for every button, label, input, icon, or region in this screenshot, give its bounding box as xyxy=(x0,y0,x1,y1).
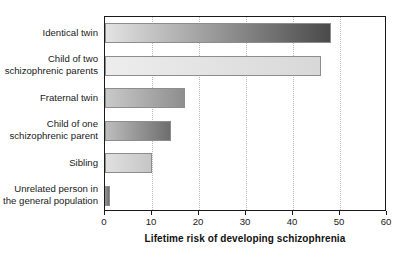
bar-row xyxy=(105,186,385,206)
tick-mark-0 xyxy=(104,211,105,215)
bar xyxy=(105,23,331,43)
gridline-10 xyxy=(152,17,154,210)
category-label: Fraternal twin xyxy=(40,92,98,103)
category-label: Unrelated person in the general populati… xyxy=(3,183,98,206)
category-label: Child of one schizophrenic parent xyxy=(9,118,98,141)
gridline-40 xyxy=(293,17,295,210)
tick-mark-50 xyxy=(339,211,340,215)
bar xyxy=(105,88,185,108)
bar xyxy=(105,186,110,206)
x-axis-title: Lifetime risk of developing schizophreni… xyxy=(104,233,386,244)
tick-mark-40 xyxy=(292,211,293,215)
bar xyxy=(105,121,171,141)
gridline-50 xyxy=(340,17,342,210)
gridline-20 xyxy=(199,17,201,210)
tick-label-50: 50 xyxy=(319,216,359,227)
bar-row xyxy=(105,23,385,43)
tick-label-30: 30 xyxy=(225,216,265,227)
category-label: Sibling xyxy=(69,157,98,168)
tick-label-20: 20 xyxy=(178,216,218,227)
plot-area xyxy=(104,16,386,211)
category-label: Identical twin xyxy=(43,27,98,38)
tick-mark-60 xyxy=(386,211,387,215)
bar xyxy=(105,56,321,76)
bar xyxy=(105,153,152,173)
tick-label-40: 40 xyxy=(272,216,312,227)
tick-mark-30 xyxy=(245,211,246,215)
category-label: Child of two schizophrenic parents xyxy=(5,53,98,76)
tick-label-60: 60 xyxy=(366,216,400,227)
bar-row xyxy=(105,56,385,76)
tick-label-10: 10 xyxy=(131,216,171,227)
tick-mark-10 xyxy=(151,211,152,215)
bar-row xyxy=(105,153,385,173)
bar-row xyxy=(105,88,385,108)
tick-mark-20 xyxy=(198,211,199,215)
tick-label-0: 0 xyxy=(84,216,124,227)
gridline-30 xyxy=(246,17,248,210)
chart-figure: Identical twinChild of two schizophrenic… xyxy=(0,0,400,257)
bar-row xyxy=(105,121,385,141)
